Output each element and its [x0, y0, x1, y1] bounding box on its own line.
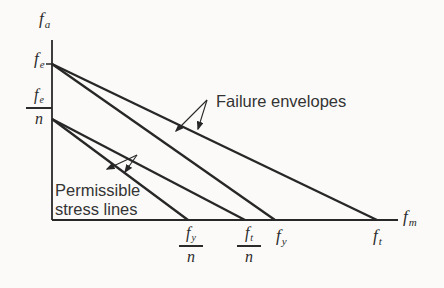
x-intercept-label-ft-over-n: ft n	[237, 225, 261, 265]
x-intercept-label-fy: fy	[276, 227, 287, 247]
fraction-bar	[26, 107, 52, 109]
x-intercept-label-ft: ft	[373, 227, 382, 247]
fraction-bar	[237, 245, 261, 247]
y-axis-label-fa: fa	[39, 10, 50, 30]
y-intercept-label-fe: fe	[34, 50, 45, 70]
y-intercept-label-fe-over-n: fe n	[26, 87, 52, 127]
permissible-stress-lines-annotation: Permissible stress lines	[55, 181, 155, 219]
x-intercept-label-fy-over-n: fy n	[179, 225, 203, 265]
goodman-stress-diagram: fa fe fe n fy n ft n fy ft fm Failure en…	[0, 0, 444, 288]
fraction-bar	[179, 245, 203, 247]
failure-envelopes-annotation: Failure envelopes	[216, 92, 346, 111]
x-axis-label-fm: fm	[403, 208, 417, 228]
